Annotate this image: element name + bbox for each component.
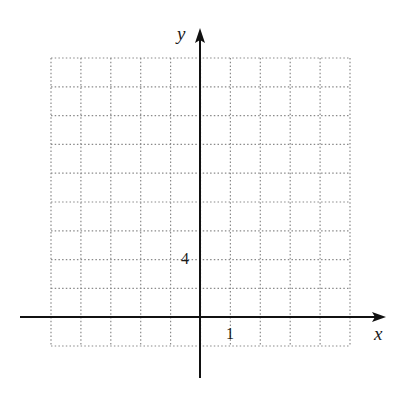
y-axis-label: y	[177, 24, 185, 43]
y-tick-label-4: 4	[181, 251, 189, 267]
x-axis	[20, 312, 386, 322]
y-axis	[195, 28, 205, 378]
x-tick-label-1: 1	[226, 326, 234, 342]
x-axis-label: x	[374, 324, 382, 343]
coordinate-grid	[0, 0, 410, 399]
